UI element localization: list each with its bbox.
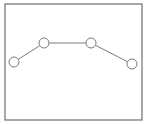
edge-group [18, 43, 127, 62]
node-3-circle-icon [86, 38, 96, 48]
node-2-circle-icon [39, 38, 49, 48]
diagram-canvas [0, 0, 147, 124]
diagram-frame [5, 4, 142, 120]
node-4-circle-icon [127, 59, 137, 69]
edge-3 [95, 45, 127, 61]
edge-1 [18, 46, 40, 60]
line-diagram [0, 0, 147, 124]
node-1-circle-icon [9, 57, 19, 67]
